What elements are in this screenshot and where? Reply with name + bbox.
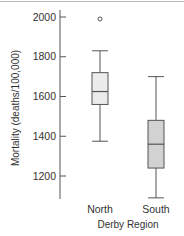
box-north bbox=[92, 17, 108, 141]
box-south bbox=[148, 77, 164, 198]
y-tick-label: 1600 bbox=[33, 90, 57, 102]
boxplot-chart: 12001400160018002000 NorthSouth Derby Re… bbox=[0, 0, 184, 236]
y-tick-label: 1200 bbox=[33, 170, 57, 182]
y-tick-label: 1800 bbox=[33, 50, 57, 62]
y-axis-title: Mortality (deaths/100,000) bbox=[10, 50, 21, 166]
x-category-label: North bbox=[87, 203, 113, 215]
x-axis-title: Derby Region bbox=[97, 219, 158, 230]
x-category-label: South bbox=[142, 203, 170, 215]
boxes bbox=[92, 17, 164, 198]
y-axis: 12001400160018002000 bbox=[33, 10, 66, 199]
x-axis-labels: NorthSouth bbox=[87, 203, 170, 215]
y-tick-label: 1400 bbox=[33, 130, 57, 142]
y-tick-label: 2000 bbox=[33, 11, 57, 23]
iqr-box bbox=[92, 73, 108, 105]
outlier-point bbox=[98, 17, 102, 21]
